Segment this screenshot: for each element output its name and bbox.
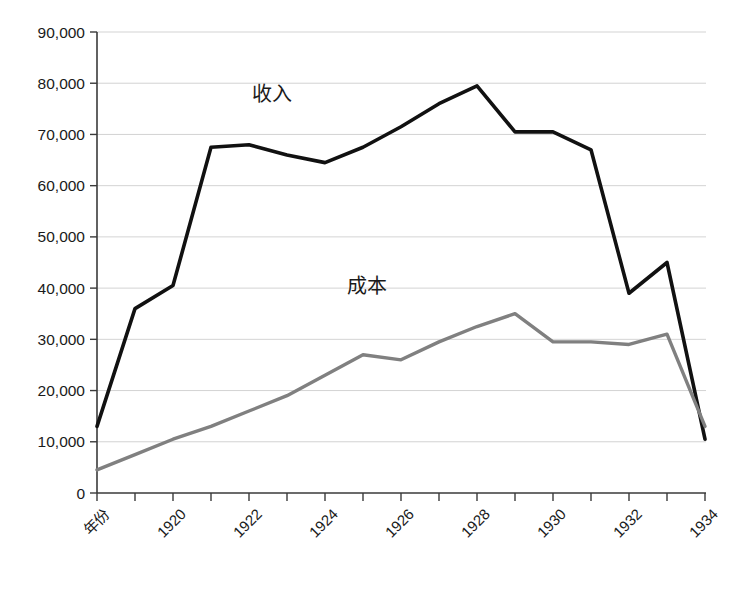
series-label-收入: 收入 [252, 83, 292, 105]
y-axis-tick-label: 60,000 [38, 177, 86, 194]
y-axis-tick-label: 50,000 [38, 228, 86, 245]
y-axis-tick-label: 20,000 [38, 382, 86, 399]
y-axis-tick-label: 10,000 [38, 433, 86, 450]
y-axis-tick-label: 40,000 [38, 280, 86, 297]
line-chart: 90,00080,00070,00060,00050,00040,00030,0… [0, 0, 731, 590]
x-axis-tick-label: 1932 [610, 505, 646, 541]
y-axis-tick-labels: 90,00080,00070,00060,00050,00040,00030,0… [38, 24, 86, 502]
chart-container: 90,00080,00070,00060,00050,00040,00030,0… [0, 0, 731, 590]
x-axis-tick-label: 1930 [534, 505, 570, 541]
series-line-成本 [97, 314, 705, 470]
series-inline-labels: 收入成本 [252, 83, 387, 297]
x-axis-tick-label: 1926 [382, 505, 418, 541]
y-axis-tick-label: 80,000 [38, 75, 86, 92]
x-axis-tick-label: 1934 [686, 505, 722, 541]
y-axis-tick-label: 70,000 [38, 126, 86, 143]
x-axis-tick-label: 1922 [230, 505, 266, 541]
x-axis-tick-label: 1920 [154, 505, 190, 541]
series-line-收入 [97, 86, 705, 439]
y-axis-tick-label: 30,000 [38, 331, 86, 348]
y-axis-tick-label: 0 [76, 485, 85, 502]
series-lines [97, 86, 705, 470]
x-axis-tick-label: 年份 [80, 505, 113, 538]
y-axis-tick-label: 90,000 [38, 24, 86, 41]
x-axis-tickmarks [97, 493, 705, 501]
x-axis-tick-labels: 年份19201922192419261928193019321934 [80, 505, 721, 541]
series-label-成本: 成本 [347, 275, 387, 297]
x-axis-tick-label: 1928 [458, 505, 494, 541]
x-axis-tick-label: 1924 [306, 505, 342, 541]
